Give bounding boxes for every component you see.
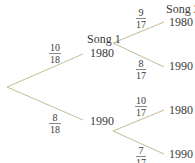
probability-1980-1980: 9 17	[136, 7, 146, 30]
denominator: 18	[50, 54, 60, 65]
numerator: 10	[50, 42, 60, 53]
header-song-2: Song 2	[166, 2, 195, 16]
numerator: 10	[136, 95, 146, 106]
denominator: 17	[136, 107, 146, 118]
node-1980-1990: 1990	[169, 59, 193, 73]
branch-root-to-1980	[7, 54, 83, 87]
probability-1990-1980: 10 17	[135, 95, 147, 118]
numerator: 8	[139, 58, 144, 69]
denominator: 17	[136, 70, 146, 81]
header-song-1: Song 1	[87, 32, 121, 46]
probability-tree-diagram: Song 1 Song 2 1980 1990 1980 1990 1980 1…	[0, 0, 195, 163]
node-1990-1990: 1990	[169, 147, 193, 161]
probability-1980-1990: 8 17	[136, 58, 146, 81]
probability-root-1980: 10 18	[49, 42, 61, 65]
numerator: 7	[139, 145, 144, 156]
numerator: 8	[53, 112, 58, 123]
denominator: 17	[136, 157, 146, 163]
denominator: 17	[136, 19, 146, 30]
node-song1-1980: 1980	[90, 46, 114, 60]
probability-root-1990: 8 18	[49, 112, 61, 135]
numerator: 9	[139, 7, 144, 18]
branch-root-to-1990	[7, 87, 83, 120]
node-song1-1990: 1990	[90, 114, 114, 128]
node-1990-1980: 1980	[169, 103, 193, 117]
probability-1990-1990: 7 17	[136, 145, 146, 163]
node-1980-1980: 1980	[169, 15, 193, 29]
denominator: 18	[50, 124, 60, 135]
